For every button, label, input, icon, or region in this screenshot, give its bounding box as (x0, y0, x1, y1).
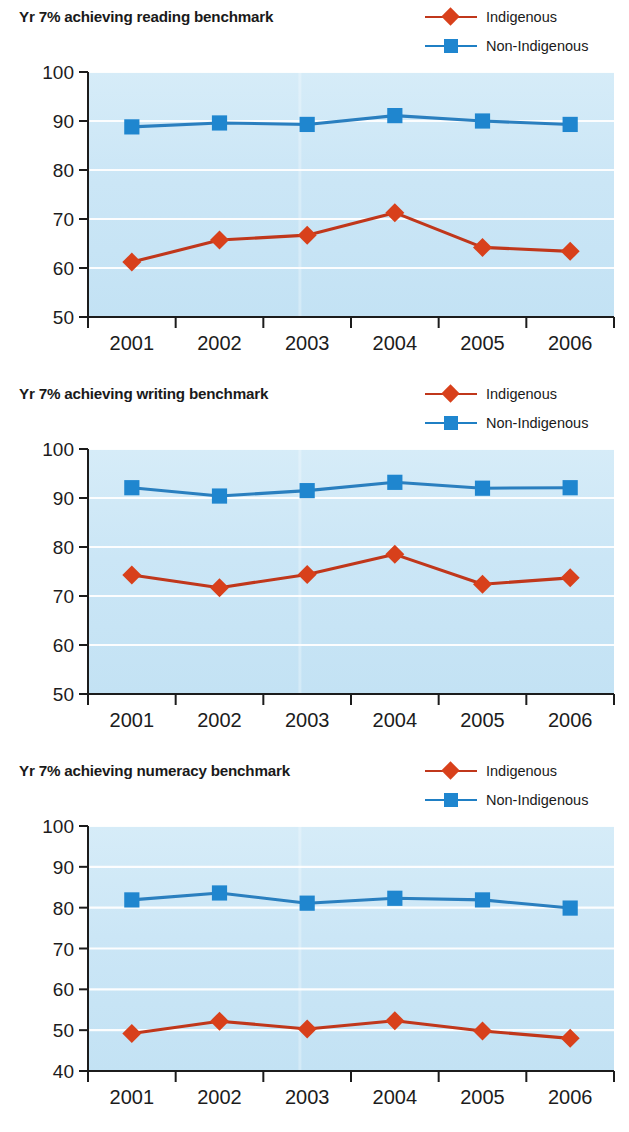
legend-item-indigenous: Indigenous (425, 756, 588, 785)
svg-text:100: 100 (42, 439, 74, 460)
svg-text:60: 60 (53, 979, 74, 1000)
diamond-marker-icon (425, 7, 477, 27)
chart-page: Yr 7% achieving reading benchmark Indige… (0, 0, 629, 1132)
line-chart-svg: 5060708090100200120022003200420052006 (0, 62, 629, 377)
square-marker-icon (425, 36, 477, 56)
diamond-marker-icon (425, 761, 477, 781)
chart-title: Yr 7% achieving reading benchmark (19, 8, 273, 25)
chart-writing-benchmark: Yr 7% achieving writing benchmark Indige… (0, 377, 629, 754)
chart-legend: Indigenous Non-Indigenous (425, 2, 588, 60)
line-chart-svg: 405060708090100200120022003200420052006 (0, 816, 629, 1131)
svg-text:2001: 2001 (110, 709, 155, 731)
svg-text:50: 50 (53, 307, 74, 328)
svg-text:2004: 2004 (373, 332, 418, 354)
svg-text:2006: 2006 (548, 332, 593, 354)
svg-text:2004: 2004 (373, 1086, 418, 1108)
legend-item-non-indigenous: Non-Indigenous (425, 785, 588, 814)
plot-area: 405060708090100200120022003200420052006 (0, 816, 629, 1131)
svg-text:100: 100 (42, 816, 74, 837)
svg-text:50: 50 (53, 684, 74, 705)
svg-text:2004: 2004 (373, 709, 418, 731)
legend-label: Non-Indigenous (486, 415, 588, 431)
svg-text:40: 40 (53, 1061, 74, 1082)
svg-text:2006: 2006 (548, 1086, 593, 1108)
svg-text:2003: 2003 (285, 709, 330, 731)
legend-item-non-indigenous: Non-Indigenous (425, 31, 588, 60)
chart-header: Yr 7% achieving reading benchmark Indige… (0, 0, 629, 62)
svg-text:50: 50 (53, 1020, 74, 1041)
svg-text:90: 90 (53, 111, 74, 132)
chart-legend: Indigenous Non-Indigenous (425, 379, 588, 437)
plot-area: 5060708090100200120022003200420052006 (0, 62, 629, 377)
svg-text:2002: 2002 (197, 332, 242, 354)
svg-text:2006: 2006 (548, 709, 593, 731)
legend-label: Non-Indigenous (486, 792, 588, 808)
legend-label: Indigenous (486, 9, 557, 25)
diamond-marker-icon (425, 384, 477, 404)
svg-text:2002: 2002 (197, 1086, 242, 1108)
chart-title: Yr 7% achieving writing benchmark (19, 385, 268, 402)
svg-text:60: 60 (53, 635, 74, 656)
svg-text:2003: 2003 (285, 332, 330, 354)
svg-text:70: 70 (53, 586, 74, 607)
legend-item-indigenous: Indigenous (425, 379, 588, 408)
svg-text:2001: 2001 (110, 1086, 155, 1108)
chart-numeracy-benchmark: Yr 7% achieving numeracy benchmark Indig… (0, 754, 629, 1132)
svg-text:2001: 2001 (110, 332, 155, 354)
svg-text:60: 60 (53, 258, 74, 279)
chart-title: Yr 7% achieving numeracy benchmark (19, 762, 290, 779)
chart-reading-benchmark: Yr 7% achieving reading benchmark Indige… (0, 0, 629, 377)
svg-text:2002: 2002 (197, 709, 242, 731)
legend-item-indigenous: Indigenous (425, 2, 588, 31)
svg-text:80: 80 (53, 537, 74, 558)
legend-label: Indigenous (486, 386, 557, 402)
svg-text:2005: 2005 (460, 1086, 505, 1108)
svg-text:100: 100 (42, 62, 74, 83)
square-marker-icon (425, 413, 477, 433)
svg-text:80: 80 (53, 160, 74, 181)
legend-label: Indigenous (486, 763, 557, 779)
chart-header: Yr 7% achieving writing benchmark Indige… (0, 377, 629, 439)
line-chart-svg: 5060708090100200120022003200420052006 (0, 439, 629, 754)
svg-text:2005: 2005 (460, 332, 505, 354)
svg-text:90: 90 (53, 857, 74, 878)
svg-text:80: 80 (53, 898, 74, 919)
chart-legend: Indigenous Non-Indigenous (425, 756, 588, 814)
legend-item-non-indigenous: Non-Indigenous (425, 408, 588, 437)
svg-text:2005: 2005 (460, 709, 505, 731)
square-marker-icon (425, 790, 477, 810)
svg-text:90: 90 (53, 488, 74, 509)
svg-text:70: 70 (53, 939, 74, 960)
chart-header: Yr 7% achieving numeracy benchmark Indig… (0, 754, 629, 816)
legend-label: Non-Indigenous (486, 38, 588, 54)
svg-text:70: 70 (53, 209, 74, 230)
svg-text:2003: 2003 (285, 1086, 330, 1108)
plot-area: 5060708090100200120022003200420052006 (0, 439, 629, 754)
